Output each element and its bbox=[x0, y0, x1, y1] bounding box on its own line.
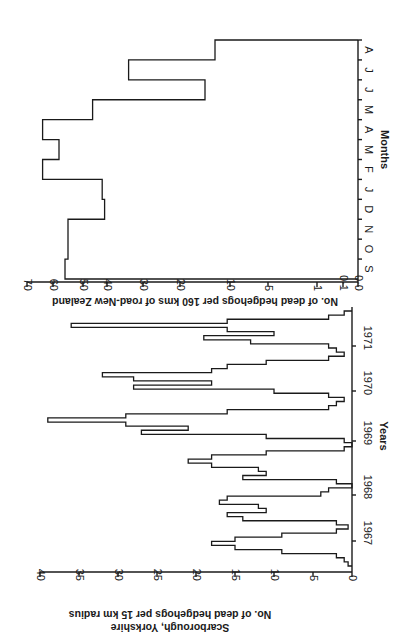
sc-value-tick-label: 15 bbox=[230, 569, 242, 581]
nz-month-label: D bbox=[363, 205, 375, 213]
nz-value-tick-label: 0·1 bbox=[338, 275, 350, 291]
sc-x-axis-title: Years bbox=[378, 421, 390, 450]
nz-month-label: A bbox=[363, 46, 375, 54]
figure-canvas: 051015202530354019671968196919701971Year… bbox=[0, 0, 400, 641]
nz-value-tick-label: 30 bbox=[138, 279, 150, 291]
nz-month-label: M bbox=[363, 105, 375, 114]
sc-step-series bbox=[48, 311, 352, 566]
sc-value-tick-label: 5 bbox=[308, 575, 320, 581]
nz-month-label: S bbox=[363, 265, 375, 272]
sc-year-label: 1968 bbox=[362, 475, 374, 499]
nz-value-tick-label: 5 bbox=[263, 285, 275, 291]
nz-value-tick-label: 0·0 bbox=[353, 275, 365, 291]
nz-value-tick-label: 50 bbox=[78, 279, 90, 291]
nz-month-label: N bbox=[363, 225, 375, 233]
nz-value-tick-label: 60 bbox=[48, 279, 60, 291]
nz-value-tick-label: 40 bbox=[102, 279, 114, 291]
sc-y-axis-title-2: Scarborough, Yorkshire bbox=[111, 622, 230, 634]
nz-value-tick-label: 10 bbox=[225, 279, 237, 291]
figure-svg: 051015202530354019671968196919701971Year… bbox=[0, 0, 400, 641]
sc-year-label: 1971 bbox=[362, 326, 374, 350]
nz-x-axis-title: Months bbox=[379, 130, 391, 169]
sc-year-label: 1967 bbox=[362, 521, 374, 545]
nz-month-label: M bbox=[363, 145, 375, 154]
sc-value-tick-label: 30 bbox=[113, 569, 125, 581]
nz-month-label: A bbox=[363, 126, 375, 134]
nz-step-series bbox=[43, 40, 358, 279]
rotated-figure: 051015202530354019671968196919701971Year… bbox=[22, 40, 391, 634]
sc-value-tick-label: 35 bbox=[74, 569, 86, 581]
sc-y-axis-title-1: No. of dead hedgehogs per 15 km radius bbox=[69, 609, 272, 621]
nz-value-tick-label: 1 bbox=[312, 285, 324, 291]
sc-value-tick-label: 20 bbox=[191, 569, 203, 581]
sc-value-tick-label: 40 bbox=[35, 569, 47, 581]
nz-month-label: J bbox=[363, 87, 375, 93]
nz-value-tick-label: 70 bbox=[22, 279, 34, 291]
nz-y-axis-title: No. of dead hedgehogs per 160 kms of roa… bbox=[52, 296, 338, 308]
nz-month-label: F bbox=[363, 166, 375, 173]
sc-value-tick-label: 25 bbox=[152, 569, 164, 581]
sc-value-tick-label: 0 bbox=[347, 575, 359, 581]
nz-month-label: O bbox=[363, 245, 375, 254]
nz-value-tick-label: 20 bbox=[175, 279, 187, 291]
nz-month-label: J bbox=[363, 187, 375, 193]
sc-year-label: 1969 bbox=[362, 421, 374, 445]
nz-month-label: J bbox=[363, 67, 375, 73]
sc-value-tick-label: 10 bbox=[269, 569, 281, 581]
scarborough-chart: 051015202530354019671968196919701971Year… bbox=[35, 307, 390, 634]
new-zealand-chart: 0·00·11510203040506070No. of dead hedgeh… bbox=[22, 40, 391, 308]
sc-year-label: 1970 bbox=[362, 371, 374, 395]
